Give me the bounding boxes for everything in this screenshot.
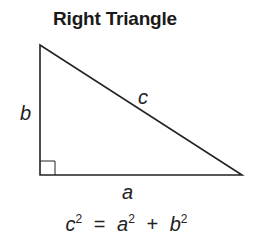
triangle-shape — [40, 45, 242, 175]
formula-c: c — [66, 213, 76, 235]
right-angle-marker — [40, 161, 55, 175]
side-b-label: b — [20, 102, 31, 124]
formula-b-exp: 2 — [181, 212, 188, 226]
formula-a: a — [117, 213, 128, 235]
right-triangle-figure: b c a — [0, 0, 253, 247]
formula-b: b — [170, 213, 181, 235]
formula-a-exp: 2 — [128, 212, 135, 226]
formula-plus: + — [146, 213, 158, 235]
pythagorean-formula: c2 = a2 + b2 — [0, 212, 253, 236]
side-a-label: a — [122, 181, 133, 203]
formula-equals: = — [94, 213, 106, 235]
formula-c-exp: 2 — [76, 212, 83, 226]
side-c-label: c — [138, 86, 148, 108]
